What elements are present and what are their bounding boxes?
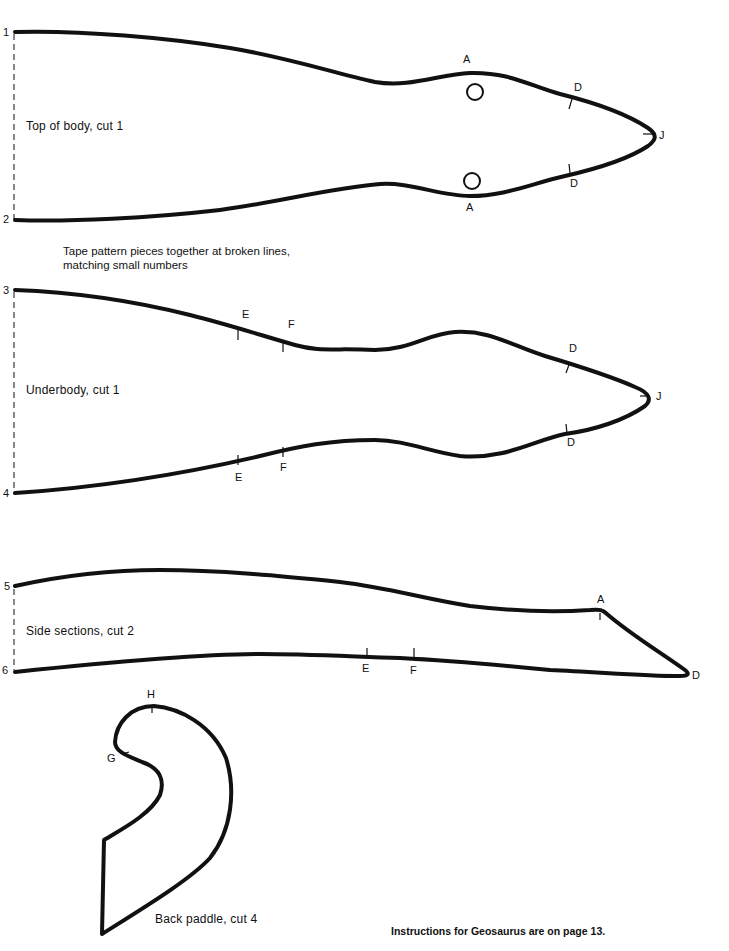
underbody-label: Underbody, cut 1 xyxy=(26,383,120,397)
join-number-5: 5 xyxy=(4,580,10,592)
mark-d-lower: D xyxy=(567,436,575,448)
join-number-3: 3 xyxy=(3,284,9,296)
pattern-artwork xyxy=(0,0,729,951)
side-section-outline xyxy=(15,570,688,676)
mark-d-upper: D xyxy=(569,342,577,354)
mark-a-bottom: A xyxy=(466,201,473,213)
eye-hole-top xyxy=(467,84,483,100)
back-paddle-label: Back paddle, cut 4 xyxy=(155,912,257,926)
mark-j-top-body: J xyxy=(659,129,665,141)
mark-a-top: A xyxy=(463,53,470,65)
tape-note: Tape pattern pieces together at broken l… xyxy=(63,244,290,272)
mark-a-side: A xyxy=(597,593,604,605)
side-section-tick-marks xyxy=(367,613,600,657)
mark-f-side: F xyxy=(410,664,417,676)
mark-h: H xyxy=(147,688,155,700)
tape-note-line1: Tape pattern pieces together at broken l… xyxy=(63,244,290,258)
mark-f-lower: F xyxy=(280,461,287,473)
mark-e-upper: E xyxy=(242,308,249,320)
mark-j-underbody: J xyxy=(656,390,662,402)
mark-e-side: E xyxy=(362,662,369,674)
join-number-4: 4 xyxy=(3,487,9,499)
join-number-2: 2 xyxy=(3,213,9,225)
back-paddle-tick-marks xyxy=(122,706,152,754)
mark-d-top: D xyxy=(574,81,582,93)
join-number-6: 6 xyxy=(2,664,8,676)
mark-g: G xyxy=(107,752,116,764)
mark-f-upper: F xyxy=(288,318,295,330)
tape-note-line2: matching small numbers xyxy=(63,258,290,272)
top-body-label: Top of body, cut 1 xyxy=(26,119,123,133)
mark-d-side: D xyxy=(692,669,700,681)
eye-hole-bottom xyxy=(464,173,480,189)
mark-d-bottom: D xyxy=(570,177,578,189)
instructions-footer: Instructions for Geosaurus are on page 1… xyxy=(391,925,605,937)
mark-e-lower: E xyxy=(235,471,242,483)
underbody-tick-marks xyxy=(238,329,650,465)
back-paddle-outline xyxy=(102,706,231,934)
side-sections-label: Side sections, cut 2 xyxy=(26,624,134,638)
join-number-1: 1 xyxy=(3,26,9,38)
